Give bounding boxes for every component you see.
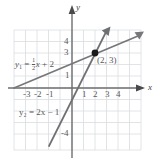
- equation-y1-subscript: 1: [19, 64, 22, 70]
- equation-y1-plus: +: [42, 59, 47, 69]
- x-tick--3: -3: [23, 90, 31, 99]
- y-tick-3: 3: [64, 48, 69, 57]
- x-tick-1: 1: [82, 90, 87, 99]
- equation-label-y2: y₂ = 2x − 1: [19, 108, 59, 117]
- line-y2: [49, 27, 111, 147]
- y-tick-1: 1: [65, 71, 70, 80]
- y-axis: [69, 5, 76, 158]
- equation-y1-equals: =: [24, 59, 29, 69]
- graph-canvas: [0, 0, 162, 164]
- graph-figure: x y -3 -2 -1 1 2 3 4 4 3 1 -4 y1 = 12x +…: [0, 0, 162, 164]
- x-tick--1: -1: [46, 90, 54, 99]
- equation-label-y1: y1 = 12x + 2: [15, 57, 54, 72]
- y-tick--4: -4: [61, 129, 69, 138]
- x-tick-4: 4: [116, 90, 121, 99]
- equation-y1-variable: x: [36, 59, 40, 69]
- x-tick-2: 2: [93, 90, 98, 99]
- equation-y1-intercept: 2: [49, 59, 54, 69]
- fraction-numerator: 1: [32, 57, 35, 64]
- equation-y1-fraction: 12: [32, 57, 35, 72]
- intersection-point-label: (2, 3): [97, 56, 117, 65]
- x-tick--2: -2: [34, 90, 42, 99]
- x-tick-3: 3: [105, 90, 110, 99]
- x-axis-label: x: [148, 83, 152, 92]
- y-axis-label: y: [76, 3, 80, 12]
- y-tick-4: 4: [64, 37, 69, 46]
- fraction-denominator: 2: [32, 64, 35, 72]
